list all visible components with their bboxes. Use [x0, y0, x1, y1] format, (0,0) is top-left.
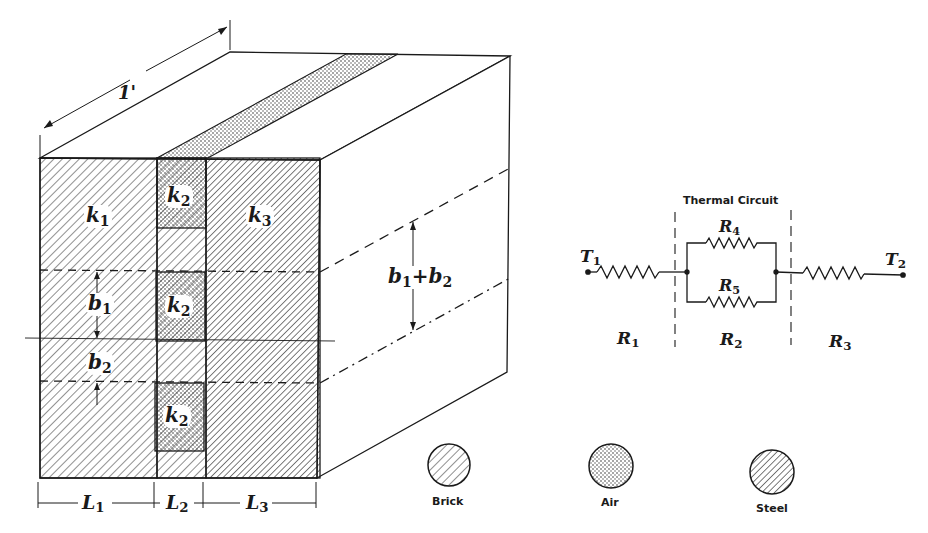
b1-plus-b2-label: b1+b2	[386, 266, 454, 289]
composite-wall-figure: 1' k1 k2 k3 k2 k2 b1 b2 b1+b2 L1 L2 L3 T…	[0, 0, 928, 533]
R5-label: R5	[719, 278, 740, 296]
thermal-circuit-title: Thermal Circuit	[683, 194, 778, 207]
R3-label: R3	[829, 333, 851, 353]
b2-label: b2	[86, 352, 114, 375]
L1-label: L1	[82, 493, 105, 515]
legend-steel-label: Steel	[756, 502, 788, 515]
T1-label: T1	[580, 248, 601, 268]
b1-label: b1	[86, 293, 114, 316]
R4-label: R4	[719, 219, 740, 237]
R2-label: R2	[720, 331, 742, 351]
L3-label: L3	[246, 493, 269, 515]
k2-label-bottom: k2	[163, 405, 191, 428]
L2-label: L2	[166, 493, 189, 515]
R1-label: R1	[617, 330, 639, 350]
k2-label-middle: k2	[165, 295, 193, 318]
T2-label: T2	[885, 251, 906, 271]
legend-air-label: Air	[601, 496, 619, 509]
k2-label-top: k2	[165, 185, 193, 208]
k3-label: k3	[246, 205, 274, 228]
figure-drawing	[0, 0, 928, 533]
k1-label: k1	[84, 205, 112, 228]
legend-brick-label: Brick	[432, 495, 463, 508]
depth-dimension-label: 1'	[118, 84, 136, 102]
